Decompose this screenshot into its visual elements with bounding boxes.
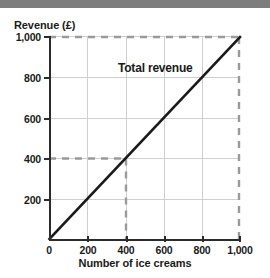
y-tick-label-1000: 1,000: [1, 31, 41, 43]
x-axis-title: Number of ice creams: [0, 257, 270, 269]
x-tick-label-1000: 1,000: [215, 244, 265, 256]
y-tick-mark-200: [44, 199, 50, 201]
y-tick-label-800: 800: [1, 72, 41, 84]
y-tick-mark-1000: [44, 36, 50, 38]
x-axis-line: [49, 239, 241, 241]
top-gray-bar: [0, 0, 270, 8]
series-layer: [0, 8, 270, 278]
x-tick-mark-1000: [239, 236, 241, 242]
y-tick-label-400: 400: [1, 153, 41, 165]
y-tick-label-200: 200: [1, 194, 41, 206]
x-tick-mark-600: [164, 236, 166, 242]
y-tick-mark-600: [44, 118, 50, 120]
y-tick-mark-800: [44, 77, 50, 79]
x-tick-mark-400: [126, 236, 128, 242]
y-axis-line: [49, 36, 51, 241]
y-tick-mark-400: [44, 158, 50, 160]
x-tick-mark-800: [202, 236, 204, 242]
revenue-line-chart: Revenue (£) Total revenue 1,000 800 600: [0, 8, 270, 278]
x-tick-mark-200: [87, 236, 89, 242]
y-tick-label-600: 600: [1, 113, 41, 125]
series-label-total-revenue: Total revenue: [118, 61, 193, 75]
